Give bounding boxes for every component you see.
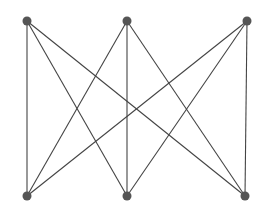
graph-node-b2 — [123, 192, 132, 201]
graph-node-t1 — [23, 17, 32, 26]
graph-edges — [27, 21, 247, 196]
graph-node-t2 — [123, 17, 132, 26]
graph-edge — [245, 21, 247, 196]
bipartite-graph-diagram — [0, 0, 264, 214]
graph-node-b3 — [241, 192, 250, 201]
graph-node-b1 — [23, 192, 32, 201]
graph-node-t3 — [243, 17, 252, 26]
